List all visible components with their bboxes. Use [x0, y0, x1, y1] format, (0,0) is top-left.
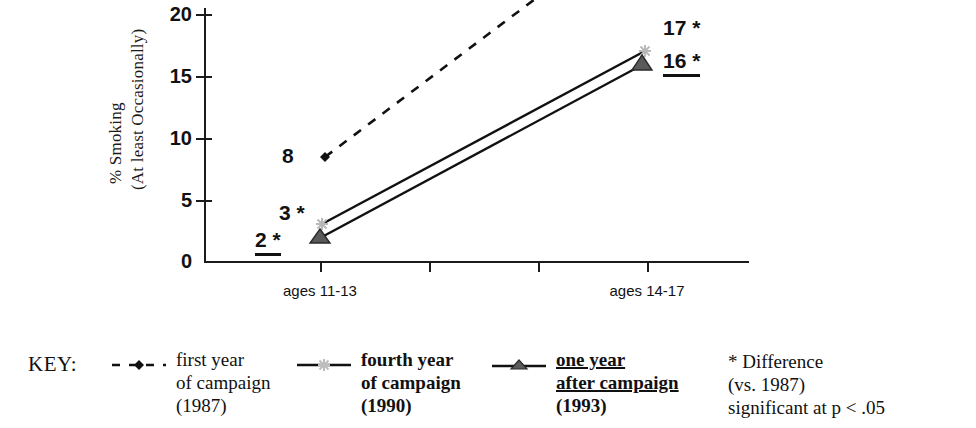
chart-plot-area: % Smoking (At least Occasionally) 20 15 …: [0, 0, 976, 330]
legend-item-1993-text: one year after campaign (1993): [556, 348, 679, 417]
point-label-1990-ages-11-13: 3 *: [279, 201, 305, 225]
dashed-diamond-line-icon: [110, 358, 168, 372]
point-label-1987-ages-11-13: 8: [282, 144, 294, 168]
series-line-1993: [320, 65, 642, 238]
point-label-1993-ages-11-13: 2 *: [255, 228, 281, 256]
point-label-1990-ages-14-17: 17 *: [663, 16, 700, 40]
legend-item-1987-text: first year of campaign (1987): [176, 348, 270, 417]
significance-note-line2: (vs. 1987): [728, 373, 885, 396]
significance-note: * Difference (vs. 1987) significant at p…: [728, 350, 885, 419]
significance-note-line1: * Difference: [728, 350, 885, 373]
legend-item-1987-line3: (1987): [176, 394, 270, 417]
legend-item-1990-line1: fourth year: [361, 348, 461, 371]
marker-1993-ages-11-13: [310, 229, 330, 243]
legend-item-1993-line3: (1993): [556, 394, 679, 417]
legend-item-1990-text: fourth year of campaign (1990): [361, 348, 461, 417]
series-lines: [0, 0, 976, 330]
legend-item-1993-line1: one year: [556, 349, 625, 370]
series-line-1990: [322, 51, 645, 224]
legend-key-label: KEY:: [28, 352, 77, 377]
marker-1990-ages-14-17: [639, 45, 651, 57]
chart-legend: KEY: first year of campaign (1987): [0, 340, 976, 428]
point-label-1993-ages-14-17: 16 *: [663, 49, 700, 77]
marker-1990-ages-11-13: [316, 218, 328, 230]
solid-triangle-line-icon: [490, 358, 548, 372]
legend-item-1990-line3: (1990): [361, 394, 461, 417]
legend-item-1987-line2: of campaign: [176, 371, 270, 394]
chart-figure: % Smoking (At least Occasionally) 20 15 …: [0, 0, 976, 428]
legend-item-1987-line1: first year: [176, 348, 270, 371]
legend-item-1990-line2: of campaign: [361, 371, 461, 394]
legend-item-1993-line2: after campaign: [556, 372, 679, 393]
solid-asterisk-line-icon: [295, 358, 353, 372]
significance-note-line3: significant at p < .05: [728, 396, 885, 419]
